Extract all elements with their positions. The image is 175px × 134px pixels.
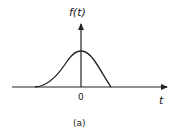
y-axis-label: f(t) [69, 6, 86, 19]
figure-caption: (a) [73, 118, 86, 128]
origin-label: 0 [78, 92, 84, 102]
pulse-diagram: f(t) 0 t (a) [0, 0, 175, 134]
pulse-curve [35, 51, 111, 87]
x-axis-label: t [159, 94, 164, 107]
